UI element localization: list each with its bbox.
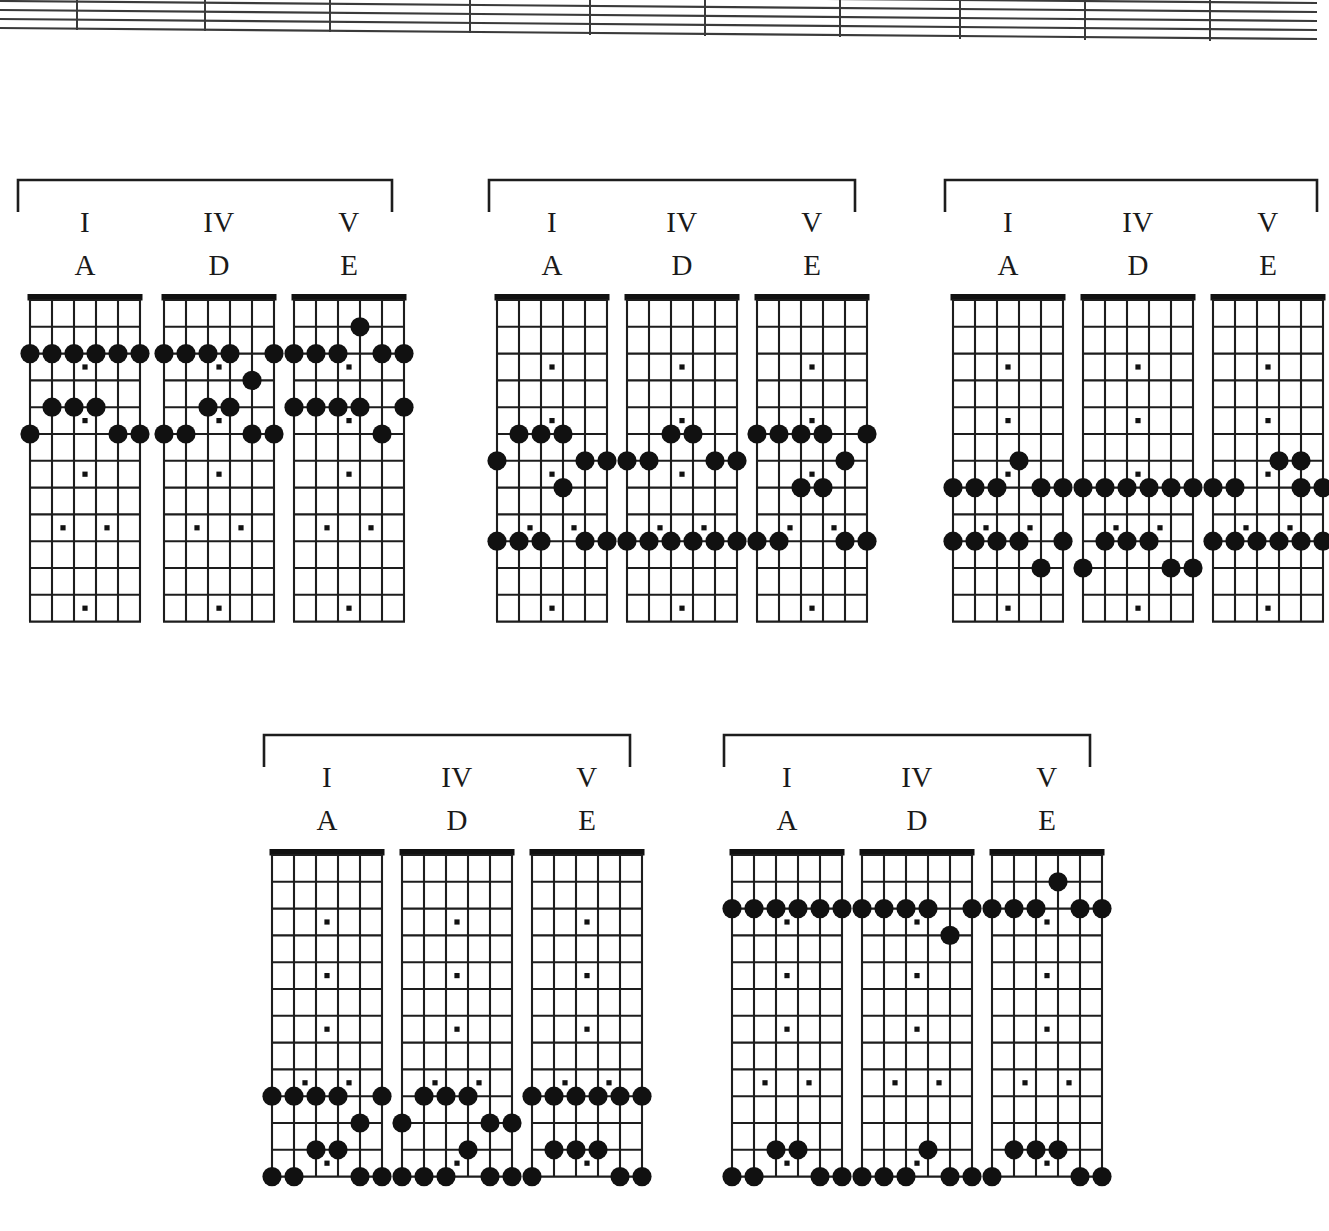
note-dot <box>632 1087 651 1106</box>
roman-numeral: V <box>1007 763 1087 792</box>
note-dot <box>788 1140 807 1159</box>
note-dot <box>553 424 572 443</box>
note-dot <box>544 1140 563 1159</box>
note-dot <box>588 1087 607 1106</box>
note-dot <box>220 398 239 417</box>
note-dot <box>1139 478 1158 497</box>
note-dot <box>262 1167 281 1186</box>
note-dot <box>835 532 854 551</box>
chart-label-e: VE <box>772 208 852 280</box>
note-dot <box>436 1087 455 1106</box>
note-dot <box>284 1087 303 1106</box>
roman-numeral: IV <box>417 763 497 792</box>
note-dot <box>130 424 149 443</box>
note-dot <box>1313 478 1329 497</box>
note-dot <box>943 478 962 497</box>
chord-name: E <box>772 251 852 280</box>
note-dot <box>502 1167 521 1186</box>
note-dot <box>531 532 550 551</box>
fretboard-i-a <box>947 290 1069 636</box>
note-dot <box>108 344 127 363</box>
note-dot <box>791 424 810 443</box>
note-dot <box>372 424 391 443</box>
note-dot <box>852 1167 871 1186</box>
roman-numeral: V <box>547 763 627 792</box>
note-dot <box>480 1167 499 1186</box>
note-dot <box>832 1167 851 1186</box>
chart-label-e: VE <box>309 208 389 280</box>
roman-numeral: I <box>45 208 125 237</box>
note-dot <box>1225 478 1244 497</box>
note-dot <box>350 1113 369 1132</box>
roman-numeral: IV <box>1098 208 1178 237</box>
note-dot <box>1070 899 1089 918</box>
note-dot <box>896 899 915 918</box>
note-dot <box>661 424 680 443</box>
note-dot <box>857 532 876 551</box>
note-dot <box>350 398 369 417</box>
note-dot <box>1026 1140 1045 1159</box>
roman-numeral: V <box>772 208 852 237</box>
note-dot <box>918 1140 937 1159</box>
note-dot <box>242 371 261 390</box>
note-dot <box>1225 532 1244 551</box>
chord-name: E <box>309 251 389 280</box>
fretboard-v-e <box>751 290 873 636</box>
note-dot <box>705 451 724 470</box>
chart-label-d: IVD <box>417 763 497 835</box>
note-dot <box>394 398 413 417</box>
note-dot <box>813 478 832 497</box>
chord-name: A <box>968 251 1048 280</box>
note-dot <box>1203 532 1222 551</box>
chord-name: A <box>45 251 125 280</box>
chart-label-a: IA <box>45 208 125 280</box>
note-dot <box>744 1167 763 1186</box>
chart-label-d: IVD <box>179 208 259 280</box>
note-dot <box>392 1113 411 1132</box>
note-dot <box>392 1167 411 1186</box>
note-dot <box>835 451 854 470</box>
note-dot <box>42 398 61 417</box>
note-dot <box>1117 478 1136 497</box>
chord-group-4: IAIVDVE <box>262 733 638 1183</box>
note-dot <box>264 424 283 443</box>
fretboard-i-a <box>491 290 613 636</box>
note-dot <box>943 532 962 551</box>
chart-label-d: IVD <box>1098 208 1178 280</box>
note-dot <box>414 1167 433 1186</box>
music-staff-fragment <box>0 0 1317 46</box>
chart-label-a: IA <box>968 208 1048 280</box>
note-dot <box>509 532 528 551</box>
note-dot <box>198 398 217 417</box>
note-dot <box>810 899 829 918</box>
chord-name: A <box>287 806 367 835</box>
chart-label-a: IA <box>747 763 827 835</box>
note-dot <box>610 1087 629 1106</box>
note-dot <box>813 424 832 443</box>
note-dot <box>575 532 594 551</box>
note-dot <box>661 532 680 551</box>
note-dot <box>1031 478 1050 497</box>
fretboard-v-e <box>288 290 410 636</box>
note-dot <box>487 451 506 470</box>
note-dot <box>610 1167 629 1186</box>
note-dot <box>553 478 572 497</box>
chord-name: D <box>877 806 957 835</box>
roman-numeral: I <box>747 763 827 792</box>
note-dot <box>1031 558 1050 577</box>
note-dot <box>242 424 261 443</box>
note-dot <box>896 1167 915 1186</box>
note-dot <box>198 344 217 363</box>
note-dot <box>874 1167 893 1186</box>
note-dot <box>857 424 876 443</box>
roman-numeral: IV <box>179 208 259 237</box>
note-dot <box>531 424 550 443</box>
note-dot <box>1161 478 1180 497</box>
note-dot <box>509 424 528 443</box>
note-dot <box>108 424 127 443</box>
chart-label-a: IA <box>512 208 592 280</box>
fretboard-i-a <box>24 290 146 636</box>
note-dot <box>1247 532 1266 551</box>
fretboard-i-a <box>266 845 388 1191</box>
note-dot <box>328 1087 347 1106</box>
